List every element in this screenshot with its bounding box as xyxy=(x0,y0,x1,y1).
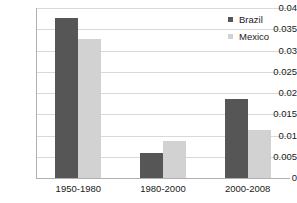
legend-label-mexico: Mexico xyxy=(239,31,269,42)
legend-item-mexico: Mexico xyxy=(228,31,269,42)
bar-brazil-1950-1980 xyxy=(55,18,78,178)
legend-item-brazil: Brazil xyxy=(228,14,269,25)
x-axis-tick-label: 1980-2000 xyxy=(121,183,206,194)
bar-chart: 00.0050.010.0150.020.0250.030.0350.04 19… xyxy=(0,0,297,203)
legend-label-brazil: Brazil xyxy=(239,14,263,25)
x-axis-tick-label: 2000-2008 xyxy=(205,183,290,194)
bar-mexico-1980-2000 xyxy=(163,141,186,178)
bar-brazil-1980-2000 xyxy=(140,153,163,178)
x-axis-line xyxy=(36,178,290,179)
legend: Brazil Mexico xyxy=(228,14,269,48)
legend-swatch-icon-brazil xyxy=(228,17,233,22)
bar-brazil-2000-2008 xyxy=(225,99,248,178)
bar-mexico-2000-2008 xyxy=(248,130,271,178)
legend-swatch-icon-mexico xyxy=(228,34,233,39)
x-axis-tick-label: 1950-1980 xyxy=(36,183,121,194)
bar-mexico-1950-1980 xyxy=(78,39,101,178)
